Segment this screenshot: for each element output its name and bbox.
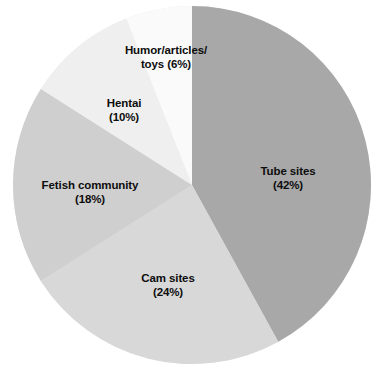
- pie-chart: Tube sites(42%)Cam sites(24%)Fetish comm…: [0, 0, 385, 371]
- pie-chart-canvas: [0, 0, 385, 371]
